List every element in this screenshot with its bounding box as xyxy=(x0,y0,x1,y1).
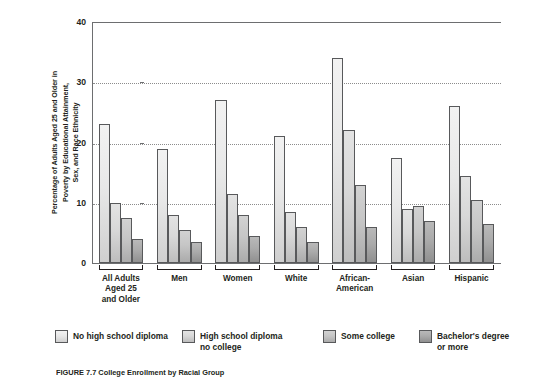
bar[interactable] xyxy=(249,236,260,263)
bar[interactable] xyxy=(215,100,226,263)
category-bracket xyxy=(215,265,260,270)
bar[interactable] xyxy=(99,124,110,263)
category-bracket xyxy=(332,265,377,270)
y-tick-label-40: 40 xyxy=(56,17,86,27)
bar-group xyxy=(391,22,436,263)
bar[interactable] xyxy=(413,206,424,263)
legend-label: No high school diploma xyxy=(73,330,168,342)
bar-group xyxy=(99,22,144,263)
bar-group xyxy=(215,22,260,263)
y-tick-label-20: 20 xyxy=(56,138,86,148)
legend-swatch-icon xyxy=(182,330,195,343)
bar[interactable] xyxy=(296,227,307,263)
category-label: Hispanic xyxy=(437,274,506,284)
category-bracket xyxy=(274,265,319,270)
figure-caption: FIGURE 7.7 College Enrollment by Racial … xyxy=(56,368,486,377)
bar[interactable] xyxy=(238,215,249,263)
figure-container: Percentage of Adults Aged 25 and Older i… xyxy=(0,0,538,377)
bar-group xyxy=(157,22,202,263)
bar[interactable] xyxy=(274,136,285,263)
category-bracket xyxy=(391,265,436,270)
bar[interactable] xyxy=(460,176,471,263)
y-tick-label-0: 0 xyxy=(56,258,86,268)
bar[interactable] xyxy=(449,106,460,263)
y-axis-tick-labels: 010203040 xyxy=(52,0,86,377)
bar[interactable] xyxy=(227,194,238,263)
bar[interactable] xyxy=(366,227,377,263)
bar[interactable] xyxy=(110,203,121,263)
legend-label: Bachelor's degree or more xyxy=(437,330,509,352)
legend-swatch-icon xyxy=(323,330,336,343)
y-tick-label-30: 30 xyxy=(56,77,86,87)
legend-item[interactable]: Some college xyxy=(323,330,395,343)
legend-item[interactable]: High school diploma no college xyxy=(182,330,282,352)
bar-group xyxy=(332,22,377,263)
x-axis-categories: All Adults Aged 25 and OlderMenWomenWhit… xyxy=(92,263,501,315)
legend-swatch-icon xyxy=(419,330,432,343)
bar[interactable] xyxy=(307,242,318,263)
bar-group xyxy=(449,22,494,263)
legend-swatch-icon xyxy=(55,330,68,343)
bar[interactable] xyxy=(332,58,343,263)
category-bracket xyxy=(449,265,494,270)
y-tick-label-10: 10 xyxy=(56,198,86,208)
bar[interactable] xyxy=(179,230,190,263)
bar[interactable] xyxy=(121,218,132,263)
bar-series-container xyxy=(92,22,501,263)
bar[interactable] xyxy=(471,200,482,263)
bar[interactable] xyxy=(285,212,296,263)
bar[interactable] xyxy=(483,224,494,263)
chart-legend: No high school diplomaHigh school diplom… xyxy=(55,330,525,362)
category-bracket xyxy=(157,265,202,270)
bar[interactable] xyxy=(132,239,143,263)
bar[interactable] xyxy=(157,149,168,263)
y-axis-title-wrapper: Percentage of Adults Aged 25 and Older i… xyxy=(14,10,50,275)
bar-group xyxy=(274,22,319,263)
bar[interactable] xyxy=(391,158,402,263)
bar[interactable] xyxy=(343,130,354,263)
bar[interactable] xyxy=(424,221,435,263)
category-bracket xyxy=(99,265,144,270)
legend-item[interactable]: No high school diploma xyxy=(55,330,168,343)
bar[interactable] xyxy=(168,215,179,263)
bar[interactable] xyxy=(191,242,202,263)
bar[interactable] xyxy=(402,209,413,263)
legend-item[interactable]: Bachelor's degree or more xyxy=(419,330,509,352)
legend-label: Some college xyxy=(341,330,395,342)
legend-label: High school diploma no college xyxy=(200,330,282,352)
bar[interactable] xyxy=(355,185,366,263)
